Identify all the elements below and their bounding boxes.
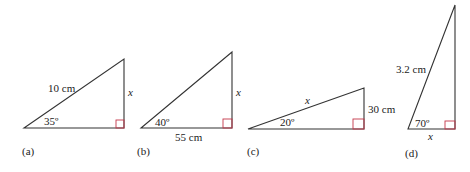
right-angle-marker-c xyxy=(353,119,364,129)
right-angle-marker-b xyxy=(223,119,232,128)
angle-label-d: 70º xyxy=(415,117,430,129)
adjacent-label-d: x xyxy=(427,130,433,142)
right-angle-marker-a xyxy=(116,120,124,128)
opposite-label-b: x xyxy=(235,86,241,98)
caption-b: (b) xyxy=(137,145,150,158)
triangle-a: 10 cm 35º x (a) xyxy=(22,59,133,158)
angle-label-c: 20º xyxy=(280,116,295,128)
triangle-d: 3.2 cm 70º x (d) xyxy=(396,5,455,160)
opposite-label-c: 30 cm xyxy=(368,103,396,115)
hypotenuse-label-d: 3.2 cm xyxy=(396,63,426,75)
opposite-label-a: x xyxy=(127,86,133,98)
hypotenuse-label-a: 10 cm xyxy=(48,82,76,94)
triangles-diagram: 10 cm 35º x (a) 40º 55 cm x (b) x 20º 30… xyxy=(0,0,470,172)
hypotenuse-label-c: x xyxy=(304,94,310,106)
right-angle-marker-d xyxy=(445,121,455,129)
adjacent-label-b: 55 cm xyxy=(175,131,203,143)
triangle-b: 40º 55 cm x (b) xyxy=(137,52,241,158)
angle-label-a: 35º xyxy=(44,115,59,127)
caption-d: (d) xyxy=(405,147,418,160)
caption-c: (c) xyxy=(247,145,260,158)
angle-label-b: 40º xyxy=(155,116,170,128)
triangle-c: x 20º 30 cm (c) xyxy=(247,88,396,158)
caption-a: (a) xyxy=(22,145,35,158)
